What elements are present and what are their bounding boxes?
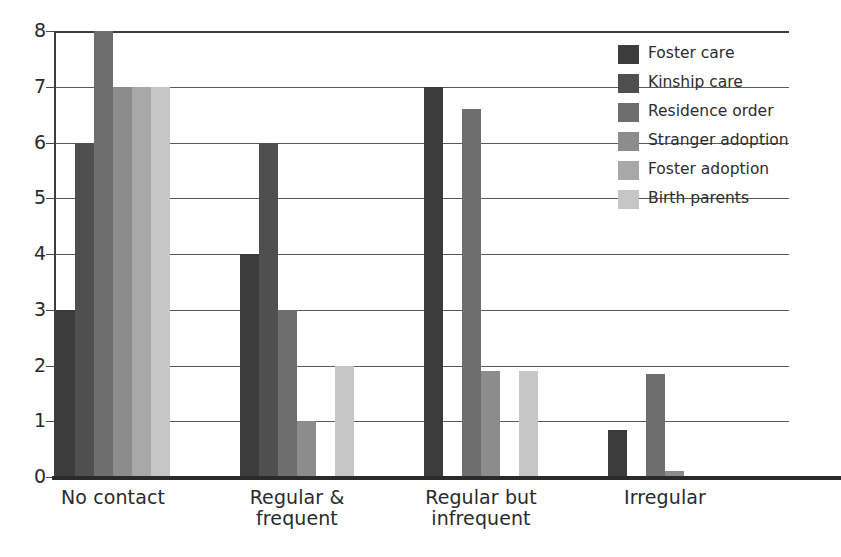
legend-item[interactable]: Foster adoption [618,157,786,183]
x-tick-label-line: frequent [197,508,397,529]
y-tick-label: 8 [16,21,46,40]
legend-swatch [618,45,639,64]
bar [278,310,297,477]
bar [240,254,259,477]
x-tick-label-line: infrequent [381,508,581,529]
y-tick-label: 4 [16,244,46,263]
legend-swatch [618,132,639,151]
legend-swatch [618,161,639,180]
y-tick-label: 2 [16,356,46,375]
legend-label: Birth parents [648,191,749,207]
y-tick-mark [46,366,54,367]
x-tick-label: Irregular [565,487,765,508]
bar [113,87,132,477]
chart-legend: Foster careKinship careResidence orderSt… [618,41,786,215]
x-tick-label: Regular butinfrequent [381,487,581,530]
bar [335,366,354,478]
y-tick-label: 1 [16,411,46,430]
legend-label: Foster adoption [648,162,769,178]
bar [94,31,113,477]
x-tick-label: No contact [13,487,213,508]
y-tick-mark [46,254,54,255]
bar [481,371,500,477]
bar-group [424,31,538,477]
legend-item[interactable]: Birth parents [618,186,786,212]
bar [75,143,94,478]
y-tick-label: 3 [16,300,46,319]
bar [132,87,151,477]
bar [297,421,316,477]
y-tick-label: 7 [16,77,46,96]
legend-swatch [618,74,639,93]
x-axis-line [52,476,841,480]
x-tick-label-line: Regular but [381,487,581,508]
y-tick-label: 5 [16,188,46,207]
bar [462,109,481,477]
bar-group [56,31,170,477]
bar [519,371,538,477]
y-tick-mark [46,310,54,311]
y-tick-mark [46,87,54,88]
y-tick-mark [46,198,54,199]
x-tick-label-line: Irregular [565,487,765,508]
bar [424,87,443,477]
legend-item[interactable]: Foster care [618,41,786,67]
legend-swatch [618,103,639,122]
legend-item[interactable]: Kinship care [618,70,786,96]
legend-label: Foster care [648,46,734,62]
y-tick-label: 0 [16,467,46,486]
x-tick-label-line: No contact [13,487,213,508]
bar [151,87,170,477]
y-axis: 876543210 [0,0,46,520]
x-tick-label-line: Regular & [197,487,397,508]
bar-group [240,31,354,477]
legend-item[interactable]: Residence order [618,99,786,125]
y-tick-mark [46,31,54,32]
bar [56,310,75,477]
y-tick-mark [46,421,54,422]
legend-label: Stranger adoption [648,133,789,149]
bar [646,374,665,477]
legend-label: Residence order [648,104,774,120]
bar [608,430,627,477]
y-tick-label: 6 [16,133,46,152]
x-tick-label: Regular &frequent [197,487,397,530]
y-tick-mark [46,143,54,144]
legend-label: Kinship care [648,75,743,91]
legend-item[interactable]: Stranger adoption [618,128,786,154]
legend-swatch [618,190,639,209]
bar [259,143,278,478]
